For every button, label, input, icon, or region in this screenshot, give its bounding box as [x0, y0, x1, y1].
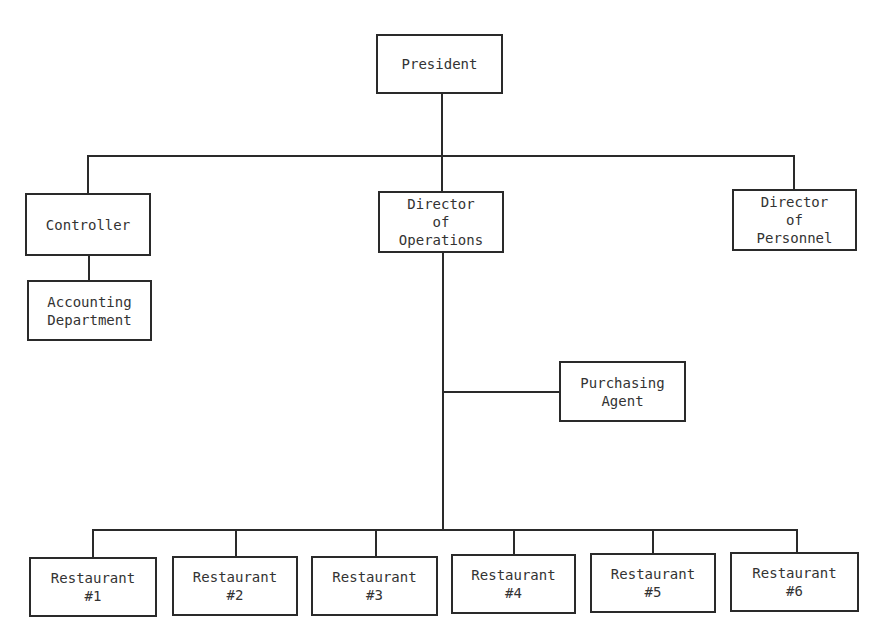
node-label: Department: [47, 311, 131, 329]
connector-operations-drop: [441, 155, 443, 192]
node-label: Personnel: [757, 229, 833, 247]
node-label: Operations: [399, 231, 483, 249]
node-label: Restaurant: [193, 568, 277, 586]
connector-president-down: [441, 93, 443, 157]
node-director-of-operations: Director of Operations: [378, 191, 504, 253]
node-restaurant-6: Restaurant #6: [730, 552, 859, 612]
node-restaurant-5: Restaurant #5: [590, 553, 716, 613]
node-president: President: [376, 34, 503, 94]
node-director-of-personnel: Director of Personnel: [732, 189, 857, 251]
node-label: Agent: [601, 392, 643, 410]
node-label: Director: [407, 195, 474, 213]
node-label: #6: [786, 582, 803, 600]
node-label: Director: [761, 193, 828, 211]
connector-restaurant-4: [513, 529, 515, 555]
node-label: of: [433, 213, 450, 231]
connector-restaurant-3: [375, 529, 377, 557]
connector-personnel-drop: [793, 155, 795, 190]
connector-restaurant-5: [652, 529, 654, 554]
connector-purchasing: [442, 391, 560, 393]
node-label: #4: [505, 584, 522, 602]
connector-controller-drop: [87, 155, 89, 194]
node-purchasing-agent: Purchasing Agent: [559, 361, 686, 422]
node-label: Purchasing: [580, 374, 664, 392]
node-label: #5: [645, 583, 662, 601]
node-restaurant-3: Restaurant #3: [311, 556, 438, 616]
node-label: President: [402, 55, 478, 73]
connector-restaurant-1: [92, 529, 94, 558]
node-label: #3: [366, 586, 383, 604]
node-restaurant-4: Restaurant #4: [451, 554, 576, 614]
node-label: Restaurant: [471, 566, 555, 584]
node-label: Restaurant: [752, 564, 836, 582]
node-label: #1: [85, 587, 102, 605]
connector-controller-accounting: [88, 255, 90, 281]
node-restaurant-2: Restaurant #2: [172, 556, 298, 616]
node-label: Controller: [46, 216, 130, 234]
node-label: Accounting: [47, 293, 131, 311]
node-label: Restaurant: [51, 569, 135, 587]
node-restaurant-1: Restaurant #1: [29, 557, 157, 617]
node-label: Restaurant: [332, 568, 416, 586]
node-label: #2: [227, 586, 244, 604]
node-label: Restaurant: [611, 565, 695, 583]
node-controller: Controller: [25, 193, 151, 256]
connector-restaurant-6: [796, 529, 798, 553]
connector-restaurant-bus: [92, 529, 798, 531]
node-label: of: [786, 211, 803, 229]
connector-restaurant-2: [235, 529, 237, 557]
node-accounting-department: Accounting Department: [27, 280, 152, 341]
org-chart: President Controller Accounting Departme…: [0, 0, 884, 636]
